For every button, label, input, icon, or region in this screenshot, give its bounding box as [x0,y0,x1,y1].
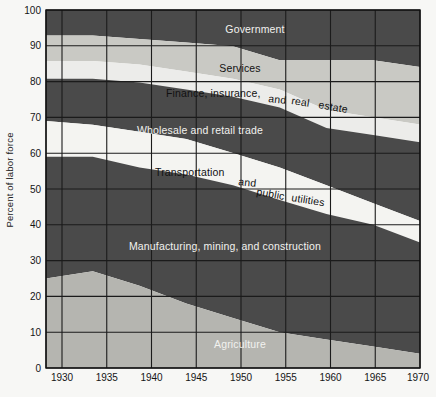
x-tick-1965: 1965 [364,372,387,383]
x-tick-labels: 1930 1935 1940 1945 1950 1955 1960 1965 … [51,372,430,383]
x-tick-1960: 1960 [319,372,342,383]
x-tick-1955: 1955 [275,372,298,383]
chart-figure: Percent of labor force [0,0,436,397]
y-tick-90: 90 [30,40,42,51]
x-tick-1945: 1945 [185,372,208,383]
y-tick-70: 70 [30,112,42,123]
y-tick-40: 40 [30,219,42,230]
label-transportation-line2: and [238,175,257,189]
y-tick-20: 20 [30,291,42,302]
stacked-area-chart: Percent of labor force [0,0,436,397]
x-tick-1930: 1930 [51,372,74,383]
label-manufacturing: Manufacturing, mining, and construction [129,240,321,252]
label-services: Services [219,62,260,74]
label-transportation-line1: Transportation [155,166,224,178]
x-tick-1970: 1970 [407,372,430,383]
label-wholesale: Wholesale and retail trade [137,124,263,136]
label-finance-line2: and [268,92,287,106]
y-tick-30: 30 [30,255,42,266]
y-tick-0: 0 [35,363,41,374]
label-government: Government [225,23,284,35]
x-tick-1940: 1940 [140,372,163,383]
x-tick-1935: 1935 [96,372,119,383]
y-axis-label-group: Percent of labor force [4,132,15,227]
y-tick-10: 10 [30,327,42,338]
y-tick-50: 50 [30,184,42,195]
x-tick-1950: 1950 [230,372,253,383]
y-axis-label: Percent of labor force [4,132,15,227]
y-tick-60: 60 [30,148,42,159]
label-agriculture: Agriculture [214,338,266,350]
label-finance-line1: Finance, insurance, [166,87,260,99]
y-tick-100: 100 [24,5,41,16]
y-tick-80: 80 [30,76,42,87]
